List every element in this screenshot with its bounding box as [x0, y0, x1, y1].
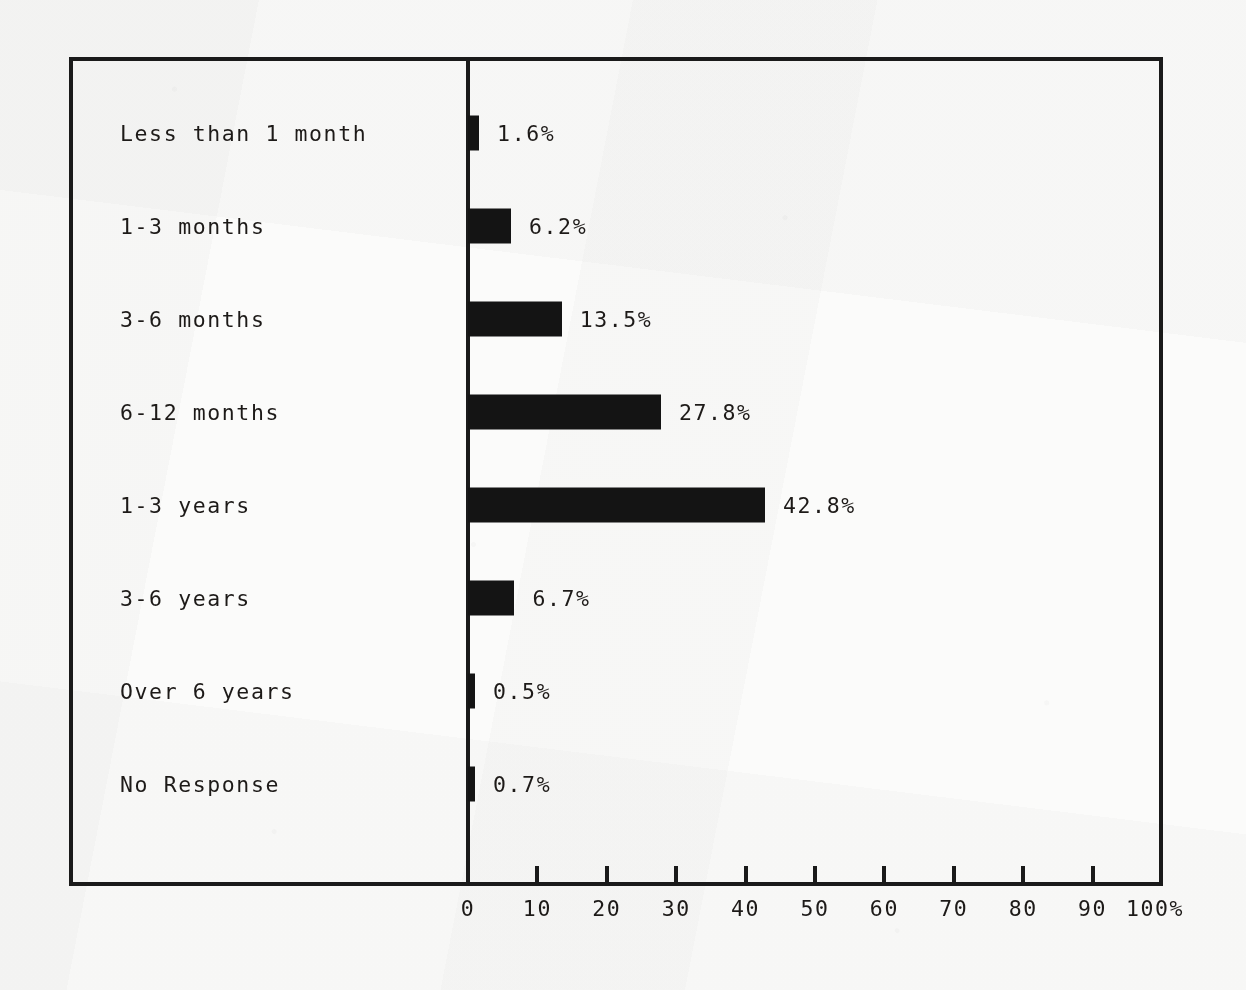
bar-value-label: 13.5% — [580, 306, 653, 331]
category-label: 6-12 months — [120, 399, 280, 424]
x-axis-tick-label: 70 — [939, 896, 968, 921]
bar — [468, 115, 479, 150]
category-label: Over 6 years — [120, 678, 295, 703]
bar — [468, 394, 661, 429]
category-label: 1-3 years — [120, 492, 251, 517]
bar-value-label: 0.7% — [493, 771, 551, 796]
bar-value-label: 6.2% — [529, 213, 587, 238]
x-axis-tick-label: 90 — [1078, 896, 1107, 921]
x-axis-tick — [952, 866, 956, 883]
x-axis-tick-label: 10 — [523, 896, 552, 921]
category-label: 3-6 years — [120, 585, 251, 610]
bar-value-label: 27.8% — [679, 399, 752, 424]
bar — [468, 487, 765, 522]
x-axis-tick — [882, 866, 886, 883]
bar-row: 6-12 months27.8% — [0, 365, 1246, 458]
category-label: 1-3 months — [120, 213, 265, 238]
bar-row: 1-3 months6.2% — [0, 179, 1246, 272]
x-axis-tick — [605, 866, 609, 883]
x-axis-tick — [1091, 866, 1095, 883]
x-axis-tick-label: 50 — [800, 896, 829, 921]
bar-row: Less than 1 month1.6% — [0, 86, 1246, 179]
bar-value-label: 1.6% — [497, 120, 555, 145]
bar — [468, 301, 562, 336]
x-axis-tick-label: 0 — [461, 896, 476, 921]
x-axis-tick — [674, 866, 678, 883]
bar-value-label: 0.5% — [493, 678, 551, 703]
category-label: No Response — [120, 771, 280, 796]
bar-row: No Response0.7% — [0, 737, 1246, 830]
x-axis-tick-label: 100% — [1126, 896, 1184, 921]
bar — [468, 673, 475, 708]
x-axis-tick-label: 80 — [1009, 896, 1038, 921]
x-axis-tick — [744, 866, 748, 883]
x-axis-tick-label: 20 — [592, 896, 621, 921]
category-label: 3-6 months — [120, 306, 265, 331]
bar — [468, 580, 514, 615]
bar-row: 1-3 years42.8% — [0, 458, 1246, 551]
bar — [468, 208, 511, 243]
bar-value-label: 42.8% — [783, 492, 856, 517]
bar-row: 3-6 years6.7% — [0, 551, 1246, 644]
x-axis-tick — [1021, 866, 1025, 883]
bar — [468, 766, 475, 801]
bar-row: Over 6 years0.5% — [0, 644, 1246, 737]
x-axis-tick — [535, 866, 539, 883]
x-axis-tick-label: 30 — [662, 896, 691, 921]
bar-row: 3-6 months13.5% — [0, 272, 1246, 365]
x-axis-tick — [813, 866, 817, 883]
category-label: Less than 1 month — [120, 120, 367, 145]
bar-value-label: 6.7% — [532, 585, 590, 610]
x-axis-tick-label: 60 — [870, 896, 899, 921]
scanned-bar-chart-page: Less than 1 month1.6%1-3 months6.2%3-6 m… — [0, 0, 1246, 990]
x-axis-tick-label: 40 — [731, 896, 760, 921]
